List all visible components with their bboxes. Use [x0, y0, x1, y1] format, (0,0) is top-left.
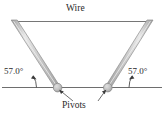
- angle-arc-right: [129, 75, 135, 87]
- wire-label: Wire: [66, 4, 85, 14]
- rod-right: [105, 20, 154, 88]
- angle-label-right: 57.0°: [128, 67, 147, 76]
- angle-arrowhead-left: [31, 75, 37, 79]
- rod-left: [11, 20, 61, 88]
- angle-label-left: 57.0°: [4, 67, 23, 76]
- diagram-canvas: [0, 0, 165, 116]
- rod-right-highlight: [108, 21, 150, 86]
- rod-left-body: [11, 20, 61, 88]
- rod-left-highlight: [14, 21, 58, 86]
- pivoting-rods-figure: Wire 57.0° 57.0° Pivots: [0, 0, 165, 116]
- pivots-label: Pivots: [62, 101, 86, 111]
- angle-arc-left: [31, 75, 37, 87]
